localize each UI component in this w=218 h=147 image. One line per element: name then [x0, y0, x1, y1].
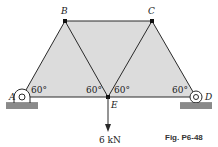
node-label-C: C	[148, 6, 155, 16]
truss-shading	[22, 21, 196, 97]
joint-C	[150, 19, 154, 23]
angle-label-E-right: 60°	[114, 85, 130, 95]
node-label-A: A	[8, 92, 16, 102]
angle-label-E-left: 60°	[86, 85, 102, 95]
angle-label-D: 60°	[172, 85, 188, 95]
truss-diagram: A B C D E 60° 60° 60° 60° 6 kN Fig. P6-4…	[0, 0, 218, 147]
load-label: 6 kN	[99, 135, 121, 145]
joint-B	[63, 19, 67, 23]
angle-label-A: 60°	[31, 85, 47, 95]
node-label-B: B	[60, 6, 68, 16]
node-label-E: E	[110, 100, 118, 110]
node-label-D: D	[204, 92, 212, 102]
truss-svg: A B C D E 60° 60° 60° 60° 6 kN Fig. P6-4…	[0, 0, 218, 147]
figure-label: Fig. P6-48	[165, 133, 203, 142]
